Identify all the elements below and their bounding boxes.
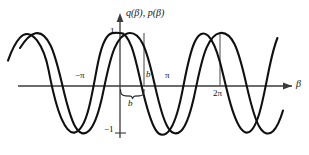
x-axis-label: β	[296, 79, 301, 89]
y-tick-label-minus-one: −1	[104, 125, 114, 134]
plot-figure	[0, 0, 309, 155]
phase-shift-label-top: b	[146, 70, 151, 79]
plot-svg	[0, 0, 309, 155]
x-axis-arrow-icon	[283, 82, 292, 89]
x-tick-label-pi: π	[165, 71, 170, 80]
phase-shift-label-brace: b	[128, 99, 133, 108]
reference-lines	[144, 33, 220, 86]
x-tick-label-two-pi: 2π	[213, 89, 222, 98]
y-axis-label: q(β), p(β)	[126, 8, 164, 18]
x-tick-label-minus-pi: −π	[75, 71, 85, 80]
y-axis-arrow-icon	[117, 13, 124, 22]
y-tick-label-one: 1	[110, 27, 115, 36]
